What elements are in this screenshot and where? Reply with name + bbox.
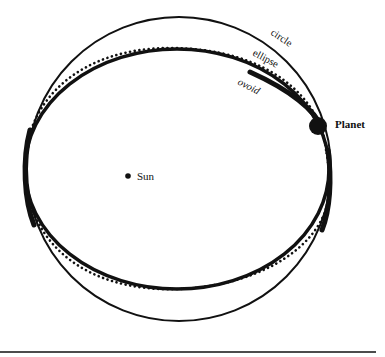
planet-label: Planet <box>335 118 365 130</box>
circle-orbit <box>27 17 331 321</box>
circle-label: circle <box>269 27 295 49</box>
ellipse-orbit <box>25 49 329 289</box>
ovoid-label: ovoid <box>236 76 262 97</box>
sun <box>125 173 131 179</box>
sun-label: Sun <box>137 170 155 182</box>
orbit-diagram: Sun Planet circle ellipse ovoid <box>0 0 385 357</box>
ellipse-orbit-emphasis <box>250 72 322 128</box>
planet <box>309 117 327 135</box>
